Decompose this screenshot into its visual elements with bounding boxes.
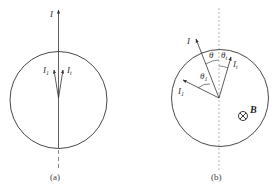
label-theta: θ [209, 50, 214, 60]
caption-b: (b) [211, 172, 222, 182]
label-transmitted-b: It [232, 59, 238, 70]
label-reflected-b: I1 [177, 86, 184, 97]
angle-arc-theta [206, 60, 219, 64]
label-field-b: B [249, 104, 257, 115]
figure-b: I θ θt It θ1 I1 B (b) [172, 8, 269, 182]
angle-arc-theta-t [219, 66, 228, 68]
circle-b [172, 50, 269, 147]
label-incident-a: I [49, 9, 54, 19]
magnetic-field-into-page-icon [239, 112, 248, 121]
reflected-arrow-b [183, 80, 219, 98]
label-transmitted-a: It [66, 65, 72, 76]
label-theta-t: θt [221, 50, 227, 61]
diagram-canvas: I I1 It (a) I θ θt It θ1 I1 B (b) [0, 0, 278, 189]
caption-a: (a) [50, 172, 60, 182]
incident-arrow-b [196, 39, 219, 98]
figure-a: I I1 It (a) [10, 9, 107, 182]
label-incident-b: I [186, 36, 191, 46]
label-reflected-a: I1 [42, 65, 49, 76]
angle-arc-theta-1 [198, 84, 210, 88]
reflected-arrow-a [54, 70, 59, 98]
transmitted-arrow-b [219, 57, 231, 98]
label-theta-1: θ1 [200, 71, 207, 82]
transmitted-arrow-a [59, 70, 64, 98]
